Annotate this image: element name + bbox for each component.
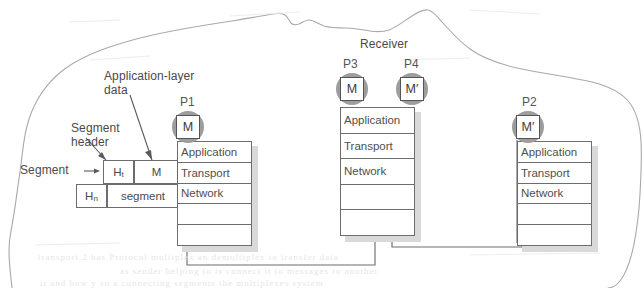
network-header-subscript: n [93,194,97,203]
stack-row-physical [341,210,414,235]
process-label-p4: P4 [404,58,419,71]
leader-app-layer-data [130,95,152,160]
segment-transport-header-box: Ht [103,160,134,184]
stack-row-link [178,204,251,225]
stack-row-application: Application [518,142,591,163]
stack-row-network: Network [518,184,591,205]
leader-app-layer-data-head [145,150,152,160]
annotation-app-layer-data-line2: data [104,84,128,97]
stack-row-physical [178,225,251,245]
stack-row-application: Application [341,108,414,134]
stack-row-network: Network [178,184,251,205]
segment-pointer-arrow [84,169,100,174]
annotation-segment-header-line1: Segment [71,122,120,135]
process-label-p2: P2 [522,96,537,109]
process-message-p2: M′ [516,115,540,139]
network-header-letter: H [85,190,93,202]
segment-word: Segment [20,163,69,177]
protocol-stack-p2: Application Transport Network [517,141,592,246]
process-label-p1: P1 [180,96,195,109]
protocol-stack-p1: Application Transport Network [177,141,252,246]
stack-row-link [341,185,414,211]
stack-row-physical [518,225,591,245]
ghost-text-line-1: transport 2 has Protocol multiplex an de… [38,252,339,262]
stack-row-network: Network [341,159,414,185]
ghost-text-line-3: it and how y so a connecting segments th… [40,278,323,288]
annotation-app-layer-data-line1: Application-layer [104,70,194,83]
network-header-box: Hn [76,184,107,208]
annotation-segment-label: Segment →Segment [20,164,69,177]
annotation-segment-header-line2: header [71,136,109,149]
stack-row-transport: Transport [518,163,591,184]
process-message-p3: M [340,77,364,101]
transport-header-subscript: t [122,170,124,179]
stack-row-transport: Transport [178,163,251,184]
stack-row-transport: Transport [341,134,414,160]
process-label-p3: P3 [343,58,358,71]
segment-payload-box: M [134,160,179,184]
stack-row-link [518,204,591,225]
receiver-host-label: Receiver [360,38,408,51]
network-payload-segment-box: segment [107,184,179,208]
process-message-p4: M′ [400,77,424,101]
ghost-text-line-2: as sender helping to is connect it to me… [120,266,378,276]
process-message-p1: M [176,115,200,139]
stack-row-application: Application [178,142,251,163]
protocol-stack-receiver: Application Transport Network [340,107,415,236]
transport-header-letter: H [113,166,121,178]
